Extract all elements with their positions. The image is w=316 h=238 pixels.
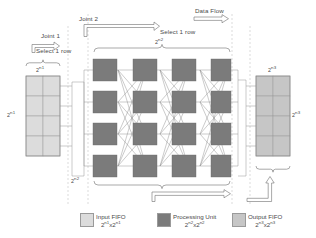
output-connector-bus xyxy=(231,70,256,176)
output-fifo-block xyxy=(256,76,290,156)
pe-array-bottom-brace xyxy=(94,181,230,189)
output-fifo-width-brace xyxy=(256,166,290,172)
output-fifo-height-label: 2n3 xyxy=(292,112,300,118)
pe-array-height-label: 2n2 xyxy=(71,178,79,184)
data-flow-arrow xyxy=(194,15,229,23)
legend-swatch-input-fifo xyxy=(80,213,94,227)
pe-array-width-label: 2n2 xyxy=(155,39,163,45)
legend-label-processing-unit: Processing Unit 2n2x2n2 xyxy=(173,213,216,228)
input-fifo-width-label: 2n1 xyxy=(36,67,44,73)
output-up-arrow xyxy=(247,177,274,202)
legend-label-output-fifo: Output FIFO 2n3x2n3 xyxy=(248,213,282,228)
input-connector-bus xyxy=(60,70,92,176)
pe-array-width-brace xyxy=(94,44,230,52)
bottom-flow-arrow xyxy=(152,190,231,202)
select-one-row-left-label: Select 1 row xyxy=(36,48,71,54)
legend-label-input-fifo: Input FIFO 2n1x2n1 xyxy=(96,213,126,228)
data-flow-label: Data Flow xyxy=(195,8,224,14)
legend-swatch-processing-unit xyxy=(157,213,171,227)
output-fifo-width-label: 2n3 xyxy=(268,67,276,73)
pe-interconnect xyxy=(92,70,228,166)
joint1-label: Joint 1 xyxy=(41,33,60,39)
joint2-select-arrow xyxy=(84,22,160,37)
select-one-row-top-label: Select 1 row xyxy=(160,29,195,35)
joint2-label: Joint 2 xyxy=(79,16,98,22)
input-fifo-height-label: 2n1 xyxy=(7,112,15,118)
input-fifo-block xyxy=(26,76,60,156)
legend-swatch-output-fifo xyxy=(232,213,246,227)
diagram-canvas: .ln{stroke:#6e6e6e;stroke-width:0.6;fill… xyxy=(0,0,316,238)
